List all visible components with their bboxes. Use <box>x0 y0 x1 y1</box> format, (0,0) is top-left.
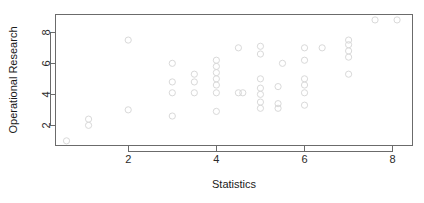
data-point <box>345 71 351 77</box>
data-point <box>213 76 219 82</box>
plot-border <box>56 15 413 146</box>
data-point <box>319 45 325 51</box>
data-point <box>213 90 219 96</box>
x-axis: 2468 <box>125 146 396 165</box>
y-tick-label: 4 <box>40 91 52 97</box>
y-tick-label: 8 <box>41 29 53 35</box>
y-tick-label: 6 <box>41 60 53 66</box>
data-point <box>345 37 351 43</box>
plot-frame <box>56 15 413 146</box>
data-points-layer <box>63 17 400 144</box>
data-point <box>301 102 307 108</box>
data-point <box>169 113 175 119</box>
data-point <box>301 82 307 88</box>
data-point <box>301 76 307 82</box>
data-point <box>191 79 197 85</box>
data-point <box>257 105 263 111</box>
data-point <box>169 79 175 85</box>
data-point <box>301 45 307 51</box>
y-axis: 2468 <box>40 29 55 128</box>
y-tick-label: 2 <box>41 122 53 128</box>
data-point <box>191 71 197 77</box>
data-point <box>240 90 246 96</box>
x-tick-label: 6 <box>301 153 307 165</box>
x-tick-label: 8 <box>390 153 396 165</box>
data-point <box>213 108 219 114</box>
data-point <box>191 90 197 96</box>
data-point <box>169 60 175 66</box>
scatter-plot-canvas: 2468 2468 Statistics Operational Researc… <box>0 0 424 203</box>
data-point <box>169 90 175 96</box>
data-point <box>213 57 219 63</box>
data-point <box>257 99 263 105</box>
data-point <box>257 51 263 57</box>
data-point <box>213 63 219 69</box>
data-point <box>213 70 219 76</box>
data-point <box>279 60 285 66</box>
data-point <box>345 54 351 60</box>
data-point <box>275 83 281 89</box>
scatter-plot-figure: 2468 2468 Statistics Operational Researc… <box>0 0 424 203</box>
data-point <box>213 82 219 88</box>
data-point <box>345 48 351 54</box>
x-axis-title: Statistics <box>212 178 257 190</box>
data-point <box>257 91 263 97</box>
data-point <box>394 17 400 23</box>
data-point <box>63 138 69 144</box>
data-point <box>301 57 307 63</box>
data-point <box>125 107 131 113</box>
data-point <box>275 101 281 107</box>
data-point <box>372 17 378 23</box>
data-point <box>257 76 263 82</box>
data-point <box>257 43 263 49</box>
data-point <box>257 85 263 91</box>
x-tick-label: 2 <box>125 153 131 165</box>
y-axis-title: Operational Research <box>7 26 19 133</box>
data-point <box>125 37 131 43</box>
data-point <box>301 90 307 96</box>
x-tick-label: 4 <box>213 153 219 165</box>
data-point <box>85 116 91 122</box>
data-point <box>85 122 91 128</box>
data-point <box>235 45 241 51</box>
